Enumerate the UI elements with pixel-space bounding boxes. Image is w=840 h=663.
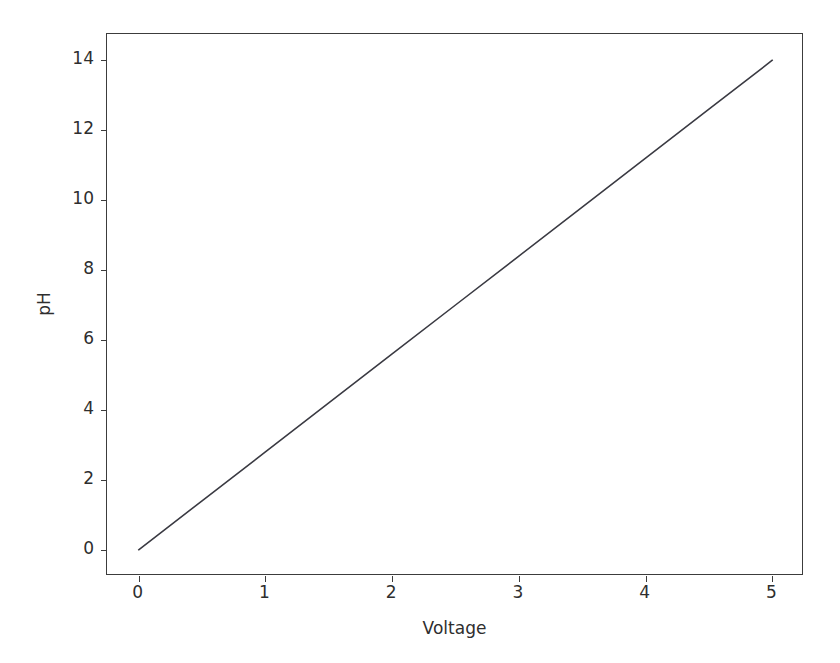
y-tick-mark	[101, 340, 107, 341]
y-tick-mark	[101, 410, 107, 411]
y-tick-labels: 02468101214	[60, 33, 94, 575]
x-tick-label: 5	[766, 584, 777, 601]
y-tick-label: 4	[83, 400, 94, 417]
x-tick-label: 1	[259, 584, 270, 601]
x-axis-label: Voltage	[106, 620, 803, 637]
y-tick-label: 14	[72, 50, 94, 67]
series-line-ph-vs-voltage	[139, 60, 773, 550]
y-tick-label: 2	[83, 470, 94, 487]
y-axis-label: pH	[33, 33, 55, 575]
y-tick-mark	[101, 130, 107, 131]
x-tick-labels: 012345	[106, 584, 803, 608]
y-tick-label: 10	[72, 190, 94, 207]
y-tick-label: 12	[72, 120, 94, 137]
y-tick-mark	[101, 200, 107, 201]
y-tick-mark	[101, 270, 107, 271]
data-line-svg	[107, 34, 804, 576]
x-tick-label: 4	[639, 584, 650, 601]
plot-area	[106, 33, 803, 575]
y-tick-mark	[101, 550, 107, 551]
y-tick-mark	[101, 480, 107, 481]
y-tick-mark	[101, 60, 107, 61]
x-tick-label: 3	[512, 584, 523, 601]
chart-figure: 02468101214 012345 pH Voltage	[0, 0, 840, 663]
y-tick-label: 6	[83, 330, 94, 347]
x-tick-label: 0	[132, 584, 143, 601]
y-tick-label: 0	[83, 540, 94, 557]
y-tick-label: 8	[83, 260, 94, 277]
x-tick-label: 2	[386, 584, 397, 601]
